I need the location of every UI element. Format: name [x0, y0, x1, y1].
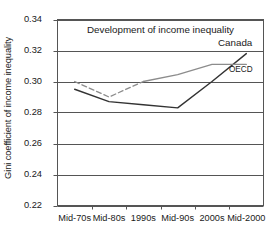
series-line-oecd	[75, 82, 144, 98]
plot-area	[0, 0, 278, 239]
series-lines	[75, 54, 247, 108]
income-inequality-chart: Gini coefficient of income inequality 0.…	[0, 0, 278, 239]
gridlines	[54, 21, 264, 207]
series-line-canada	[75, 54, 247, 108]
